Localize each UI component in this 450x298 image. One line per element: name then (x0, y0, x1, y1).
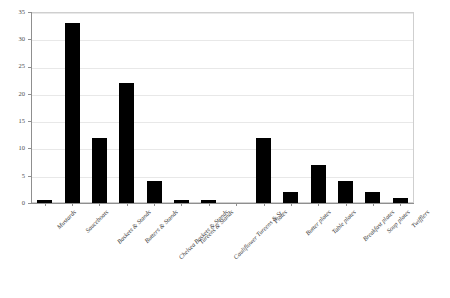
x-tick-mark (127, 203, 128, 206)
x-tick-label: Mustards (56, 209, 77, 230)
x-tick-mark (209, 203, 210, 206)
x-tick-mark (99, 203, 100, 206)
x-tick-mark (181, 203, 182, 206)
x-tick-mark (264, 203, 265, 206)
x-tick-mark (373, 203, 374, 206)
x-tick-mark (318, 203, 319, 206)
x-tick-mark (291, 203, 292, 206)
x-tick-mark (346, 203, 347, 206)
x-tick-mark (154, 203, 155, 206)
x-tick-mark (45, 203, 46, 206)
x-tick-mark (72, 203, 73, 206)
bar-chart: 05101520253035 MustardsSauceboatsBaskets… (0, 0, 450, 298)
x-tick-mark (400, 203, 401, 206)
x-tick-mark (236, 203, 237, 206)
x-tick-label: Butter plates (305, 209, 333, 237)
x-tick-label: Twifflers (411, 209, 431, 229)
x-tick-label: Table plates (331, 209, 357, 235)
x-tick-label: Sauceboats (85, 209, 110, 234)
x-axis-labels: MustardsSauceboatsBaskets & StandsButter… (0, 0, 450, 298)
